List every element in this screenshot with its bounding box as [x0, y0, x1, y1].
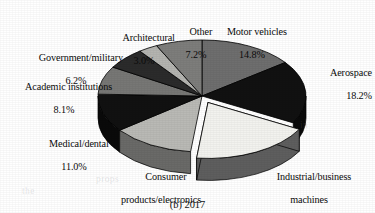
label-other-name: Other: [190, 26, 213, 37]
label-other: Other 7.2%: [172, 14, 220, 84]
label-industrial-line1: Industrial/business: [277, 171, 352, 182]
label-motor-vehicles-name: Motor vehicles: [227, 26, 287, 37]
label-aerospace-pct: 18.2%: [278, 90, 372, 102]
label-other-pct: 7.2%: [172, 49, 220, 61]
label-medical-dental-name: Medical/dental: [49, 138, 109, 149]
pie-chart-figure: Motor vehicles 14.8% Aerospace 18.2% Ind…: [0, 0, 375, 213]
label-architectural-name: Architectural: [122, 32, 174, 43]
figure-caption: (b) 2017: [0, 199, 375, 210]
label-consumer-line1: Consumer: [145, 171, 186, 182]
label-aerospace-name: Aerospace: [330, 67, 372, 78]
label-aerospace: Aerospace 18.2%: [278, 55, 372, 125]
label-medical-dental-pct: 11.0%: [28, 161, 120, 173]
